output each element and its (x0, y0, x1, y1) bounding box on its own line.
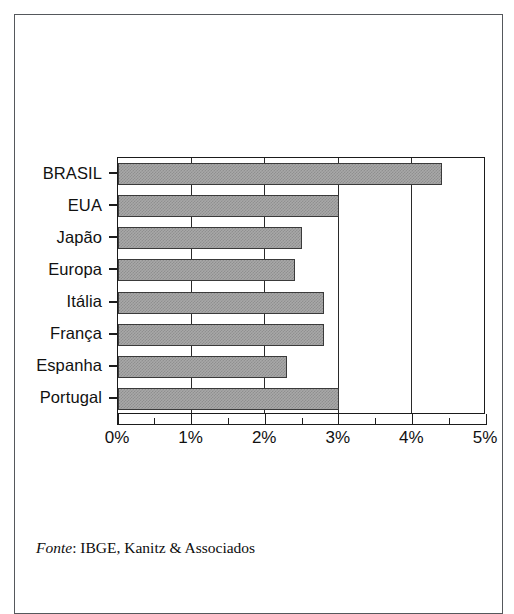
minor-tick (154, 418, 155, 425)
major-tick (118, 414, 119, 425)
value-axis-tick-labels: 0%1%2%3%4%5% (0, 428, 514, 452)
minor-tick (302, 418, 303, 425)
bar-portugal[interactable] (118, 388, 339, 410)
major-tick (265, 414, 266, 425)
bar-espanha[interactable] (118, 356, 287, 378)
bar-band (118, 383, 484, 415)
major-tick (338, 414, 339, 425)
source-text: : IBGE, Kanitz & Associados (72, 539, 255, 556)
source-note: Fonte: IBGE, Kanitz & Associados (36, 539, 255, 557)
category-label-eua: EUA (0, 189, 110, 221)
value-tick-label: 3% (326, 428, 351, 448)
minor-tick (228, 418, 229, 425)
category-tick (109, 204, 118, 206)
minor-tick (375, 418, 376, 425)
value-tick-label: 0% (105, 428, 130, 448)
bar-band (118, 190, 484, 222)
bar-frana[interactable] (118, 324, 324, 346)
plot-area (117, 157, 485, 414)
category-tick (109, 333, 118, 335)
major-tick (412, 414, 413, 425)
bar-itlia[interactable] (118, 292, 324, 314)
bar-band (118, 254, 484, 286)
bar-band (118, 287, 484, 319)
major-tick (191, 414, 192, 425)
category-label-europa: Europa (0, 253, 110, 285)
value-tick-label: 5% (473, 428, 498, 448)
bar-band (118, 158, 484, 190)
category-axis-labels: BRASILEUAJapãoEuropaItáliaFrançaEspanhaP… (0, 157, 110, 414)
category-label-japo: Japão (0, 221, 110, 253)
category-label-portugal: Portugal (0, 382, 110, 414)
category-label-itlia: Itália (0, 286, 110, 318)
category-tick (109, 236, 118, 238)
value-tick-label: 4% (399, 428, 424, 448)
bar-japo[interactable] (118, 227, 302, 249)
category-tick (109, 172, 118, 174)
bar-band (118, 222, 484, 254)
category-label-frana: França (0, 318, 110, 350)
bar-brasil[interactable] (118, 163, 442, 185)
bar-band (118, 319, 484, 351)
category-label-espanha: Espanha (0, 350, 110, 382)
value-axis-ruler (117, 414, 487, 425)
bar-eua[interactable] (118, 195, 339, 217)
minor-tick (449, 418, 450, 425)
major-tick (486, 414, 487, 425)
category-tick (109, 301, 118, 303)
source-label: Fonte (36, 539, 72, 556)
bar-series (118, 158, 484, 413)
value-tick-label: 2% (252, 428, 277, 448)
category-tick (109, 365, 118, 367)
bar-band (118, 351, 484, 383)
category-label-brasil: BRASIL (0, 157, 110, 189)
category-tick (109, 268, 118, 270)
category-tick (109, 397, 118, 399)
value-tick-label: 1% (178, 428, 203, 448)
bar-europa[interactable] (118, 259, 295, 281)
